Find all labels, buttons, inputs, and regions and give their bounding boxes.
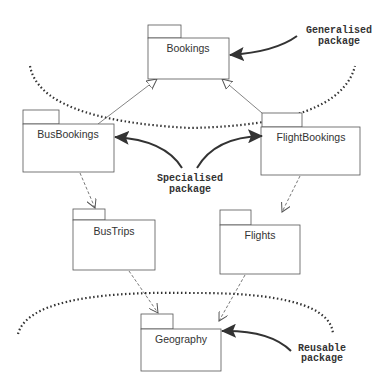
annotation-generalised-line2: package [318,36,360,47]
package-flights: Flights [220,210,300,274]
annotation-specialised-line2: package [169,184,211,195]
package-label: Geography [155,333,208,345]
annotation-reusable-line2: package [301,353,343,364]
dependency-flightbookings-flights [282,176,300,212]
package-geography: Geography [141,314,221,371]
annotation-specialised-line1: Specialised [157,173,223,184]
package-diagram: Bookings BusBookings FlightBookings BusT… [0,0,384,391]
package-label: FlightBookings [277,131,346,143]
package-label: BusTrips [93,225,134,237]
package-bustrips: BusTrips [73,209,155,270]
generalization-flightbookings-bookings [222,79,262,113]
boundary-lower [18,293,333,334]
annotation-arrow-specialised-left [115,137,182,168]
generalization-busbookings-bookings [98,79,157,124]
dependency-busbookings-bustrips [80,173,95,208]
annotation-arrow-specialised-right [197,136,262,168]
package-bookings: Bookings [148,25,229,79]
package-busbookings: BusBookings [23,110,114,172]
annotation-arrow-reusable [222,331,291,351]
package-flightbookings: FlightBookings [261,113,360,175]
annotation-arrow-generalised [230,36,297,55]
dependency-flights-geography [219,275,245,321]
package-label: BusBookings [37,128,98,140]
annotation-generalised-line1: Generalised [306,25,372,36]
package-label: Flights [245,229,276,241]
package-label: Bookings [166,42,209,54]
